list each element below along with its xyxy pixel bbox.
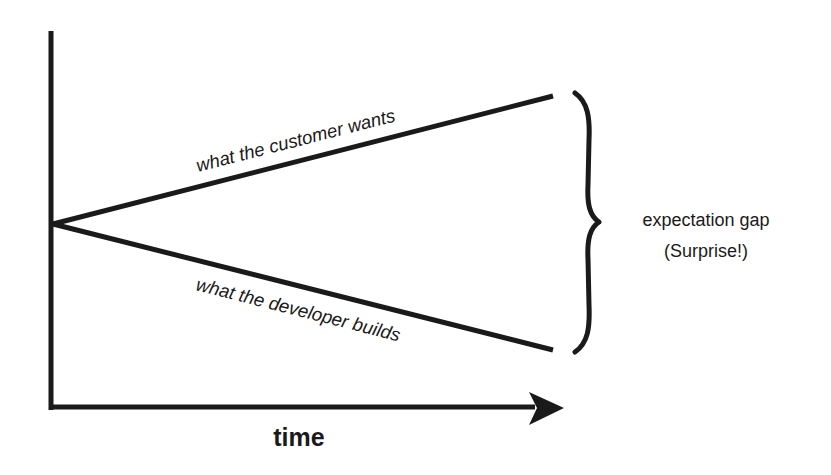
surprise-label: (Surprise!) — [664, 241, 748, 261]
expectation-gap-diagram: what the customer wants what the develop… — [0, 0, 831, 475]
customer-wants-line — [53, 96, 553, 224]
expectation-gap-label: expectation gap — [642, 210, 769, 230]
x-axis-label: time — [273, 423, 325, 451]
developer-builds-line — [53, 224, 553, 350]
curly-brace-icon — [575, 93, 599, 352]
customer-wants-label: what the customer wants — [194, 105, 397, 176]
